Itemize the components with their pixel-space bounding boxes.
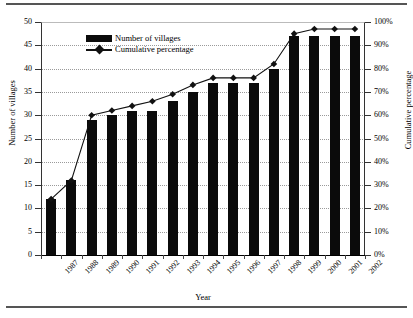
y-axis-right-tick (365, 139, 371, 140)
data-point-marker (271, 61, 278, 68)
data-point-marker (291, 30, 298, 37)
x-axis-tick-label: 1998 (286, 258, 304, 276)
legend-label-number-of-villages: Number of villages (115, 33, 181, 44)
y-axis-right-tick (365, 92, 371, 93)
data-point-marker (169, 91, 176, 98)
legend-line-diamond-icon (86, 44, 112, 55)
y-axis-right-tick-label: 70% (374, 88, 404, 96)
y-axis-left-tick-label: 10 (14, 204, 32, 212)
y-axis-right-tick (365, 232, 371, 233)
y-axis-left-title: Number of villages (7, 53, 17, 173)
y-axis-right-tick-label: 30% (374, 181, 404, 189)
line-series-cumulative-percentage (41, 22, 365, 255)
x-axis-tick-label: 2001 (346, 258, 364, 276)
x-axis-tick-label: 2000 (326, 258, 344, 276)
x-axis-tick-label: 1990 (124, 258, 142, 276)
chart-legend: Number of villages Cumulative percentage (86, 33, 194, 55)
data-point-marker (331, 26, 338, 33)
figure-top-rule (6, 3, 407, 5)
data-point-marker (230, 75, 237, 82)
y-axis-left-tick-label: 15 (14, 181, 32, 189)
y-axis-right-tick-label: 100% (374, 18, 404, 26)
x-axis-tick-label: 1993 (184, 258, 202, 276)
data-point-marker (149, 98, 156, 105)
x-axis-tick-label: 1989 (103, 258, 121, 276)
x-axis-title: Year (41, 292, 365, 302)
y-axis-left-tick-label: 5 (14, 228, 32, 236)
y-axis-left-tick-label: 0 (14, 251, 32, 259)
x-axis-tick (365, 255, 366, 259)
data-point-marker (109, 107, 116, 114)
y-axis-right-tick (365, 22, 371, 23)
y-axis-right-tick (365, 185, 371, 186)
figure-bottom-rule (6, 306, 407, 308)
x-axis-tick-label: 1994 (205, 258, 223, 276)
x-axis-tick-label: 1996 (245, 258, 263, 276)
x-axis-tick-label: 1995 (225, 258, 243, 276)
legend-label-cumulative-percentage: Cumulative percentage (115, 44, 194, 55)
x-axis-tick-label: 1991 (144, 258, 162, 276)
y-axis-left-tick-label: 50 (14, 18, 32, 26)
y-axis-right-tick-label: 90% (374, 41, 404, 49)
data-point-marker (129, 103, 136, 110)
x-axis-tick-label: 2002 (367, 258, 385, 276)
x-axis-tick-label: 1987 (63, 258, 81, 276)
y-axis-right-title: Cumulative percentage (403, 45, 413, 175)
x-axis-tick-labels: 1987198819891990199119921993199419951996… (41, 256, 365, 292)
y-axis-right-tick-label: 10% (374, 228, 404, 236)
legend-entry-bars: Number of villages (86, 33, 194, 44)
x-axis-tick-label: 1988 (83, 258, 101, 276)
data-point-marker (352, 26, 359, 33)
data-point-marker (190, 82, 197, 89)
y-axis-right-tick-label: 80% (374, 65, 404, 73)
data-point-marker (250, 75, 257, 82)
y-axis-right-tick (365, 162, 371, 163)
data-point-marker (88, 112, 95, 119)
y-axis-right-tick (365, 115, 371, 116)
x-axis-tick-label: 1999 (306, 258, 324, 276)
y-axis-right-tick-label: 60% (374, 111, 404, 119)
y-axis-right-tick (365, 45, 371, 46)
y-axis-right-tick (365, 208, 371, 209)
y-axis-right-tick-label: 20% (374, 204, 404, 212)
legend-entry-line: Cumulative percentage (86, 44, 194, 55)
y-axis-left-tick-label: 45 (14, 41, 32, 49)
x-axis-tick-label: 1992 (164, 258, 182, 276)
x-axis-tick-label: 1997 (265, 258, 283, 276)
data-point-marker (311, 26, 318, 33)
figure-container: 05101520253035404550 0%10%20%30%40%50%60… (0, 0, 413, 318)
y-axis-right-tick (365, 69, 371, 70)
y-axis-right-tick-label: 40% (374, 158, 404, 166)
y-axis-right-tick-label: 50% (374, 135, 404, 143)
data-point-marker (210, 75, 217, 82)
legend-bar-swatch-icon (86, 33, 112, 44)
